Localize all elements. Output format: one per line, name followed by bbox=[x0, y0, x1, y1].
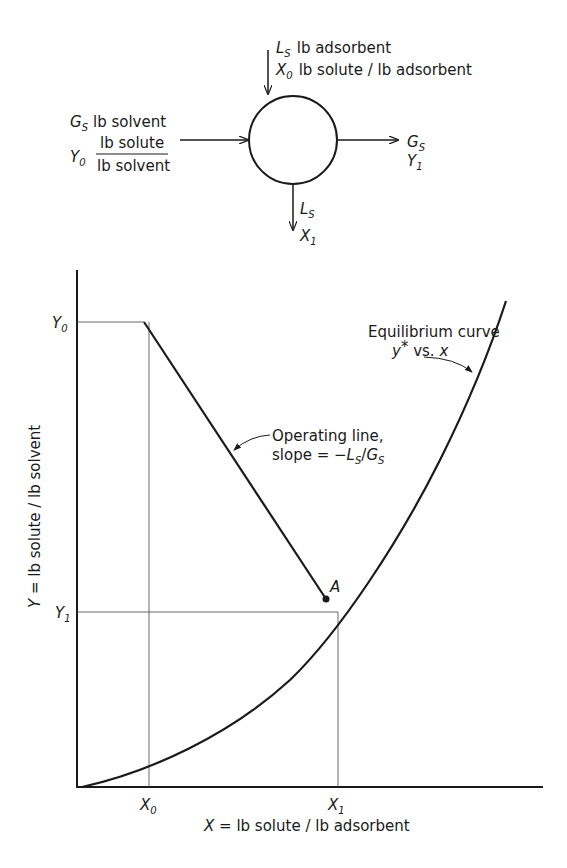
right-output-line1: GS bbox=[407, 133, 426, 153]
op-line-annotation-arrow bbox=[234, 435, 270, 450]
x-axis-title: X = lb solute / lb adsorbent bbox=[203, 817, 410, 835]
bottom-output-line2: X1 bbox=[299, 227, 317, 247]
x0-label: X0 bbox=[139, 796, 157, 816]
op-line-annotation-line1: Operating line, bbox=[272, 427, 384, 445]
equilibrium-graph: A Y0 Y1 X0 X1 X = lb solute / lb adsorbe… bbox=[26, 270, 543, 835]
right-output-line2: Y1 bbox=[407, 152, 423, 172]
left-input-line1: GSlb solvent bbox=[70, 113, 166, 133]
x1-label: X1 bbox=[327, 796, 345, 816]
adsorption-diagram: LSlb adsorbent X0lb solute / lb adsorben… bbox=[0, 0, 567, 868]
op-line-annotation-line2: slope = −LS/GS bbox=[272, 446, 385, 466]
top-input-line1: LSlb adsorbent bbox=[276, 39, 391, 59]
y-axis-title: Y = lb solute / lb solvent bbox=[26, 425, 44, 608]
left-input-numerator: lb solute bbox=[100, 134, 164, 152]
y0-label: Y0 bbox=[52, 314, 68, 334]
y1-label: Y1 bbox=[55, 604, 71, 624]
top-input-line2: X0lb solute / lb adsorbent bbox=[275, 61, 472, 81]
left-input-denominator: lb solvent bbox=[97, 157, 170, 175]
eq-curve-annotation-line2: y* vs. x bbox=[391, 338, 448, 360]
equilibrium-curve bbox=[82, 301, 506, 787]
process-schematic: LSlb adsorbent X0lb solute / lb adsorben… bbox=[70, 39, 472, 247]
left-input-ratio-symbol: Y0 bbox=[70, 148, 86, 168]
stage-circle bbox=[249, 96, 337, 184]
point-a-dot bbox=[323, 596, 330, 603]
bottom-output-line1: LS bbox=[300, 200, 315, 220]
point-a-label: A bbox=[329, 578, 340, 596]
eq-curve-annotation-line1: Equilibrium curve bbox=[368, 323, 500, 341]
